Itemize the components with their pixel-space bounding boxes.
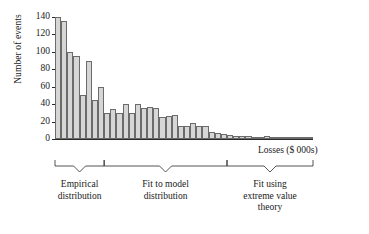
y-tick-label: 140 [36,12,50,22]
y-tick-label: 60 [41,82,51,92]
region-bracket [104,160,227,172]
y-tick-mark [52,104,55,105]
y-tick-mark [52,34,55,35]
y-tick-label: 0 [45,134,50,144]
y-axis-title: Number of events [13,0,23,99]
y-tick-mark [52,87,55,88]
y-tick-label: 20 [41,117,51,127]
y-tick-label: 80 [41,64,51,74]
x-axis-title: Losses ($ 000s) [258,145,318,155]
region-bracket [55,160,104,172]
y-tick-mark [52,122,55,123]
y-tick-label: 100 [36,47,50,57]
y-tick-mark [52,52,55,53]
y-tick-mark [52,17,55,18]
histogram-figure: Number of events 020406080100120140 Loss… [0,0,369,234]
region-caption-evt: Fit using extreme value theory [215,179,325,214]
region-caption-model-fit: Fit to model distribution [111,179,221,202]
region-bracket [227,160,313,172]
y-tick-mark [52,139,55,140]
plot-area [55,17,313,139]
y-tick-mark [52,69,55,70]
histogram-bar [307,137,313,139]
y-tick-label: 40 [41,99,51,109]
y-tick-label: 120 [36,29,50,39]
x-axis-line [55,139,313,140]
